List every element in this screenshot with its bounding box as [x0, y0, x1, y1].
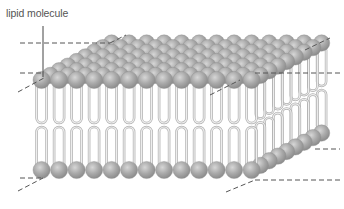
lipid-molecule-label: lipid molecule — [6, 7, 68, 19]
lipid-head — [121, 71, 138, 88]
lipid-tail — [194, 127, 204, 164]
lipid-tail — [72, 86, 82, 123]
lipid-tail — [212, 127, 222, 164]
lipid-head — [103, 161, 120, 178]
lipid-head — [51, 71, 68, 88]
lipid-tail — [229, 86, 239, 123]
lipid-tail — [212, 86, 222, 123]
lipid-head — [138, 71, 155, 88]
lipid-tail — [124, 86, 134, 123]
lipid-tail — [177, 127, 187, 164]
lipid-tail — [194, 86, 204, 123]
lipid-tail — [142, 127, 152, 164]
lipid-head — [243, 71, 260, 88]
lipid-head — [243, 161, 260, 178]
lipid-head — [191, 161, 208, 178]
lipid-head — [208, 71, 225, 88]
lipid-tail — [124, 127, 134, 164]
lipid-head — [103, 71, 120, 88]
lipid-tail — [142, 86, 152, 123]
lipid-head — [138, 161, 155, 178]
lipid-head — [33, 71, 50, 88]
front-face-bottom-heads — [33, 161, 260, 178]
lipid-tail — [107, 86, 117, 123]
lipid-head — [156, 71, 173, 88]
bilayer-illustration — [0, 0, 344, 209]
lipid-tail — [37, 127, 47, 164]
lipid-head — [156, 161, 173, 178]
lipid-tail — [37, 86, 47, 123]
lipid-tail — [159, 86, 169, 123]
lipid-head — [86, 71, 103, 88]
front-face-tails — [37, 86, 257, 164]
lipid-head — [68, 161, 85, 178]
lipid-tail — [72, 127, 82, 164]
lipid-head — [173, 71, 190, 88]
lipid-tail — [159, 127, 169, 164]
lipid-head — [51, 161, 68, 178]
lipid-head — [86, 161, 103, 178]
lipid-head — [208, 161, 225, 178]
lipid-tail — [54, 127, 64, 164]
lipid-tail — [89, 86, 99, 123]
lipid-head — [226, 161, 243, 178]
lipid-head — [191, 71, 208, 88]
lipid-tail — [107, 127, 117, 164]
lipid-head — [121, 161, 138, 178]
lipid-bilayer-diagram: lipid molecule — [0, 0, 344, 209]
lipid-tail — [54, 86, 64, 123]
lipid-head — [173, 161, 190, 178]
lipid-tail — [177, 86, 187, 123]
lipid-head — [68, 71, 85, 88]
lipid-head — [33, 161, 50, 178]
lipid-tail — [229, 127, 239, 164]
lipid-tail — [89, 127, 99, 164]
